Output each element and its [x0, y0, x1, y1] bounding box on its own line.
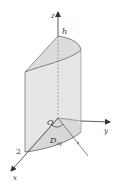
y-axis: [81, 121, 110, 122]
x-axis-label: x: [13, 174, 17, 182]
cylinder-wedge-diagram: z h O y x 2 Dxy: [0, 0, 122, 184]
height-label: h: [62, 27, 67, 36]
radius-label: 2: [16, 147, 21, 156]
origin-label: O: [47, 118, 54, 127]
z-axis-label: z: [50, 12, 55, 20]
y-axis-label: y: [103, 127, 109, 135]
region-label-sub: xy: [56, 140, 62, 147]
intersection-point: [77, 142, 79, 144]
